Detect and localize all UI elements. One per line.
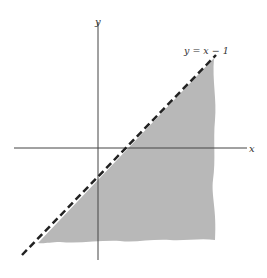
coordinate-plane: x y y = x − 1 bbox=[0, 0, 267, 278]
y-axis-label: y bbox=[94, 16, 101, 27]
line-equation-label: y = x − 1 bbox=[183, 45, 229, 56]
x-axis-label: x bbox=[249, 143, 255, 154]
shaded-region bbox=[38, 58, 215, 243]
